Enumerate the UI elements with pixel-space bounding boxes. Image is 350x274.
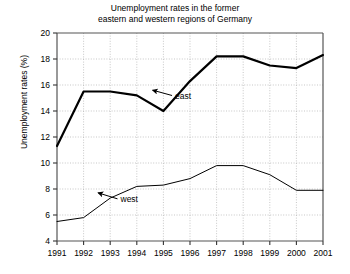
y-tick-label: 16 <box>41 80 51 90</box>
x-axis-ticks: 1991199219931994199519961997199819992000… <box>48 241 333 258</box>
y-tick-label: 4 <box>45 236 50 246</box>
annotation-arrow-east <box>153 90 172 95</box>
x-tick-label: 1993 <box>101 248 120 258</box>
x-tick-label: 2000 <box>287 248 306 258</box>
y-tick-label: 8 <box>45 184 50 194</box>
x-tick-label: 1992 <box>74 248 93 258</box>
annotations-layer: eastwest <box>98 90 192 204</box>
annotation-label-west: west <box>120 194 139 204</box>
chart-figure: Unemployment rates in the former eastern… <box>0 0 350 274</box>
y-tick-label: 20 <box>41 28 51 38</box>
y-tick-label: 12 <box>41 132 51 142</box>
x-tick-label: 1999 <box>260 248 279 258</box>
y-tick-label: 6 <box>45 210 50 220</box>
gridlines <box>57 33 323 241</box>
x-tick-label: 2001 <box>314 248 333 258</box>
annotation-label-east: east <box>175 91 192 101</box>
data-series-layer <box>57 55 323 221</box>
x-tick-label: 1995 <box>154 248 173 258</box>
line-chart-plot: 468101214161820 199119921993199419951996… <box>0 0 350 274</box>
x-tick-label: 1997 <box>207 248 226 258</box>
x-tick-label: 1996 <box>181 248 200 258</box>
y-tick-label: 10 <box>41 158 51 168</box>
y-tick-label: 14 <box>41 106 51 116</box>
x-tick-label: 1998 <box>234 248 253 258</box>
x-tick-label: 1994 <box>127 248 146 258</box>
y-tick-label: 18 <box>41 54 51 64</box>
y-axis-ticks: 468101214161820 <box>41 28 57 246</box>
x-tick-label: 1991 <box>48 248 67 258</box>
